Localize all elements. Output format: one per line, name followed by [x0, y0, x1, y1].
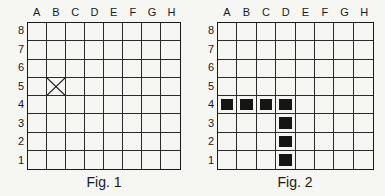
- cell-c2: [257, 133, 276, 151]
- row-label-7: 7: [202, 43, 214, 55]
- row-label-1: 1: [202, 154, 214, 166]
- row-label-6: 6: [12, 61, 24, 73]
- cell-h4: [354, 96, 373, 114]
- cell-f5: [123, 78, 142, 96]
- column-label-a: A: [27, 6, 46, 18]
- cell-d2: [85, 133, 104, 151]
- column-label-f: F: [315, 6, 334, 18]
- cell-h5: [161, 78, 180, 96]
- cell-h3: [354, 114, 373, 132]
- cell-d3: [85, 114, 104, 132]
- cell-b7: [47, 41, 66, 59]
- cell-e2: [296, 133, 315, 151]
- cell-g5: [142, 78, 161, 96]
- cell-c4: [66, 96, 85, 114]
- cell-e3: [104, 114, 123, 132]
- column-label-g: G: [335, 6, 354, 18]
- cell-c8: [66, 23, 85, 41]
- cell-a6: [28, 60, 47, 78]
- row-label-7: 7: [12, 43, 24, 55]
- cell-f6: [123, 60, 142, 78]
- cell-b6: [237, 60, 256, 78]
- cell-h1: [161, 151, 180, 169]
- cell-a4: [28, 96, 47, 114]
- cell-e6: [296, 60, 315, 78]
- cell-g1: [142, 151, 161, 169]
- row-label-4: 4: [12, 98, 24, 110]
- row-label-5: 5: [12, 80, 24, 92]
- cell-b4: [47, 96, 66, 114]
- cell-b6: [47, 60, 66, 78]
- cell-f8: [315, 23, 334, 41]
- cell-c6: [66, 60, 85, 78]
- cell-c3: [257, 114, 276, 132]
- cell-e6: [104, 60, 123, 78]
- cell-a6: [218, 60, 237, 78]
- cell-f6: [315, 60, 334, 78]
- cell-e8: [296, 23, 315, 41]
- cell-d8: [276, 23, 295, 41]
- cell-a8: [28, 23, 47, 41]
- column-label-e: E: [296, 6, 315, 18]
- cell-c7: [257, 41, 276, 59]
- cell-e5: [296, 78, 315, 96]
- cell-c5: [257, 78, 276, 96]
- cell-g8: [142, 23, 161, 41]
- cell-b3: [237, 114, 256, 132]
- filled-square-marker: [279, 99, 291, 110]
- cell-f7: [315, 41, 334, 59]
- cell-f5: [315, 78, 334, 96]
- cell-d2: [276, 133, 295, 151]
- cell-h1: [354, 151, 373, 169]
- cell-g2: [142, 133, 161, 151]
- cell-a5: [218, 78, 237, 96]
- cell-g6: [334, 60, 353, 78]
- cell-e4: [104, 96, 123, 114]
- cell-g4: [142, 96, 161, 114]
- cell-g1: [334, 151, 353, 169]
- cell-c3: [66, 114, 85, 132]
- figure-1-caption: Fig. 1: [64, 174, 144, 190]
- cell-c5: [66, 78, 85, 96]
- cell-d8: [85, 23, 104, 41]
- row-label-3: 3: [202, 117, 214, 129]
- cell-b5: [237, 78, 256, 96]
- cell-e7: [296, 41, 315, 59]
- column-label-a: A: [217, 6, 236, 18]
- x-mark-icon: [47, 78, 65, 95]
- cell-f8: [123, 23, 142, 41]
- row-label-8: 8: [202, 24, 214, 36]
- cell-h3: [161, 114, 180, 132]
- cell-c4: [257, 96, 276, 114]
- cell-c7: [66, 41, 85, 59]
- cell-b1: [237, 151, 256, 169]
- cell-a2: [28, 133, 47, 151]
- cell-d1: [85, 151, 104, 169]
- cell-b8: [237, 23, 256, 41]
- cell-d7: [85, 41, 104, 59]
- cell-g4: [334, 96, 353, 114]
- cell-d6: [276, 60, 295, 78]
- cell-g2: [334, 133, 353, 151]
- column-label-c: C: [66, 6, 85, 18]
- cell-h7: [161, 41, 180, 59]
- cell-e1: [296, 151, 315, 169]
- cell-e5: [104, 78, 123, 96]
- cell-e7: [104, 41, 123, 59]
- filled-square-marker: [279, 154, 291, 166]
- cell-f3: [123, 114, 142, 132]
- cell-c1: [257, 151, 276, 169]
- filled-square-marker: [279, 117, 291, 128]
- cell-h2: [354, 133, 373, 151]
- cell-g8: [334, 23, 353, 41]
- cell-d7: [276, 41, 295, 59]
- cell-f1: [123, 151, 142, 169]
- cell-b4: [237, 96, 256, 114]
- cell-b1: [47, 151, 66, 169]
- column-label-h: H: [162, 6, 181, 18]
- cell-d4: [85, 96, 104, 114]
- cell-a7: [218, 41, 237, 59]
- cell-g3: [142, 114, 161, 132]
- cell-h4: [161, 96, 180, 114]
- cell-a4: [218, 96, 237, 114]
